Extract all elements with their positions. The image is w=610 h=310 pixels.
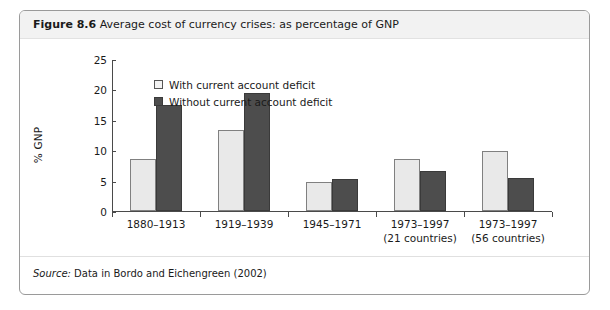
- x-axis-category-label: 1880–1913: [112, 217, 200, 231]
- y-tick-label: 20: [94, 85, 107, 95]
- x-axis-category-label: 1973–1997(56 countries): [464, 217, 552, 245]
- legend-label-with-deficit: With current account deficit: [169, 79, 315, 91]
- figure-title-text: Average cost of currency crises: as perc…: [100, 18, 399, 31]
- legend-label-without-deficit: Without current account deficit: [169, 96, 332, 108]
- y-axis-ticks: 0510152025: [80, 39, 112, 264]
- y-tick-label: 25: [94, 55, 107, 65]
- chart-legend: With current account deficit Without cur…: [154, 77, 354, 111]
- legend-item-without-deficit: Without current account deficit: [154, 94, 354, 109]
- x-axis-category-label: 1919–1939: [200, 217, 288, 231]
- y-tick-label: 10: [94, 146, 107, 156]
- x-axis-category-label: 1945–1971: [288, 217, 376, 231]
- y-tick-label: 5: [100, 177, 107, 187]
- source-note: Source: Data in Bordo and Eichengreen (2…: [33, 267, 267, 281]
- x-axis-category-main: 1973–1997: [479, 218, 538, 230]
- figure-title: Figure 8.6 Average cost of currency cris…: [33, 17, 399, 32]
- x-axis-category-sub: (21 countries): [376, 231, 464, 245]
- bar[interactable]: [332, 179, 358, 211]
- y-axis-title: % GNP: [32, 115, 44, 175]
- source-divider: [20, 256, 589, 257]
- bar[interactable]: [508, 178, 534, 211]
- x-axis-category-sub: (56 countries): [464, 231, 552, 245]
- y-tick-label: 15: [94, 116, 107, 126]
- bar[interactable]: [306, 182, 332, 211]
- y-tick-label: 0: [100, 207, 107, 217]
- x-axis-category-label: 1973–1997(21 countries): [376, 217, 464, 245]
- bar[interactable]: [482, 151, 508, 211]
- x-tick-mark: [552, 212, 553, 217]
- bar-group: [376, 60, 464, 211]
- source-label: Source:: [33, 268, 71, 279]
- bar[interactable]: [394, 159, 420, 211]
- bar[interactable]: [130, 159, 156, 211]
- source-text: Data in Bordo and Eichengreen (2002): [71, 268, 267, 279]
- figure-number: Figure 8.6: [33, 18, 96, 31]
- legend-swatch-dark-icon: [154, 97, 163, 106]
- x-axis-category-main: 1973–1997: [391, 218, 450, 230]
- x-axis-category-main: 1919–1939: [215, 218, 274, 230]
- chart-area: % GNP 0510152025 1880–19131919–19391945–…: [20, 39, 590, 264]
- x-axis-category-main: 1880–1913: [127, 218, 186, 230]
- legend-item-with-deficit: With current account deficit: [154, 77, 354, 92]
- bar[interactable]: [156, 105, 182, 211]
- bar-group: [464, 60, 552, 211]
- bar[interactable]: [420, 171, 446, 211]
- x-axis-line: [112, 211, 552, 212]
- legend-swatch-light-icon: [154, 80, 163, 89]
- figure-container: Figure 8.6 Average cost of currency cris…: [19, 10, 590, 295]
- x-axis-category-main: 1945–1971: [303, 218, 362, 230]
- bar[interactable]: [218, 130, 244, 211]
